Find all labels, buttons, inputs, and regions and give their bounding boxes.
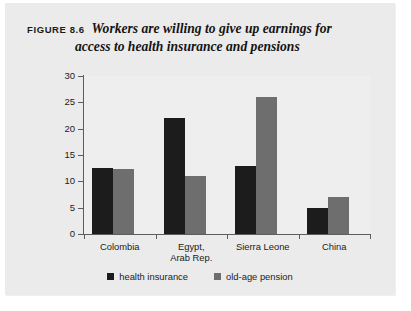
legend-entry: health insurance <box>107 271 188 282</box>
figure-number-label: FIGURE 8.6 <box>27 24 85 35</box>
y-axis-tick-label-wrap: 25 <box>43 102 75 103</box>
legend-label: old-age pension <box>226 271 293 282</box>
y-axis-tick-label-wrap: 15 <box>43 155 75 156</box>
y-axis-tick-label: 10 <box>45 175 75 186</box>
y-axis-tick-label: 0 <box>45 228 75 239</box>
y-axis-tick-label-wrap: 30 <box>43 76 75 77</box>
bar-old-age-pension <box>328 197 349 234</box>
category-label-line: Egypt, <box>156 241 228 252</box>
y-axis-tick <box>78 181 83 182</box>
category-label: Colombia <box>84 241 156 252</box>
bar-group <box>84 76 156 234</box>
y-axis-tick-label-wrap: 20 <box>43 129 75 130</box>
bar-group <box>227 76 299 234</box>
plot-area <box>84 76 370 234</box>
y-axis-tick-label-wrap: 0 <box>43 234 75 235</box>
y-axis-tick-label-wrap: 5 <box>43 208 75 209</box>
y-axis-tick-label: 20 <box>45 123 75 134</box>
chart-legend: health insuranceold-age pension <box>5 271 395 282</box>
x-axis-tick <box>156 234 157 239</box>
legend-entry: old-age pension <box>214 271 293 282</box>
x-axis-tick <box>370 234 371 239</box>
bar-old-age-pension <box>256 97 277 234</box>
bar-health-insurance <box>307 208 328 234</box>
category-label: Sierra Leone <box>227 241 299 252</box>
figure-title-text-2: access to health insurance and pensions <box>75 38 357 55</box>
y-axis-tick <box>78 155 83 156</box>
legend-label: health insurance <box>119 271 188 282</box>
y-axis-tick-label: 5 <box>45 202 75 213</box>
bar-old-age-pension <box>113 169 134 234</box>
legend-swatch-icon <box>107 273 114 280</box>
category-label: Egypt,Arab Rep. <box>156 241 228 263</box>
y-axis-tick <box>78 208 83 209</box>
category-label-line: Arab Rep. <box>156 252 228 263</box>
y-axis-tick-label-wrap: 10 <box>43 181 75 182</box>
y-axis-tick <box>78 129 83 130</box>
x-axis-tick <box>84 234 85 239</box>
bar-group <box>156 76 228 234</box>
category-label-line: Sierra Leone <box>227 241 299 252</box>
figure-title-block: FIGURE 8.6 Workers are willing to give u… <box>27 19 357 55</box>
bar-health-insurance <box>164 118 185 234</box>
bar-health-insurance <box>235 166 256 234</box>
y-axis-tick-label: 25 <box>45 96 75 107</box>
figure-panel: FIGURE 8.6 Workers are willing to give u… <box>5 3 395 295</box>
bar-health-insurance <box>92 168 113 234</box>
legend-swatch-icon <box>214 273 221 280</box>
y-axis-tick <box>78 234 83 235</box>
bar-old-age-pension <box>185 176 206 234</box>
x-axis-tick <box>299 234 300 239</box>
figure-title-line-1 <box>85 21 92 36</box>
y-axis-tick-label: 30 <box>45 70 75 81</box>
category-label-line: Colombia <box>84 241 156 252</box>
y-axis-tick <box>78 102 83 103</box>
y-axis-tick-label: 15 <box>45 149 75 160</box>
y-axis-tick <box>78 76 83 77</box>
category-label: China <box>299 241 371 252</box>
bars-container <box>84 76 370 234</box>
bar-group <box>299 76 371 234</box>
x-axis-tick <box>227 234 228 239</box>
figure-title-text-1: Workers are willing to give up earnings … <box>92 21 332 36</box>
category-label-line: China <box>299 241 371 252</box>
